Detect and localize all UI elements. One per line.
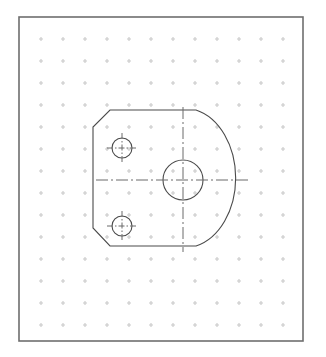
cad-canvas[interactable] [0, 0, 326, 357]
cad-drawing-app [0, 0, 326, 357]
